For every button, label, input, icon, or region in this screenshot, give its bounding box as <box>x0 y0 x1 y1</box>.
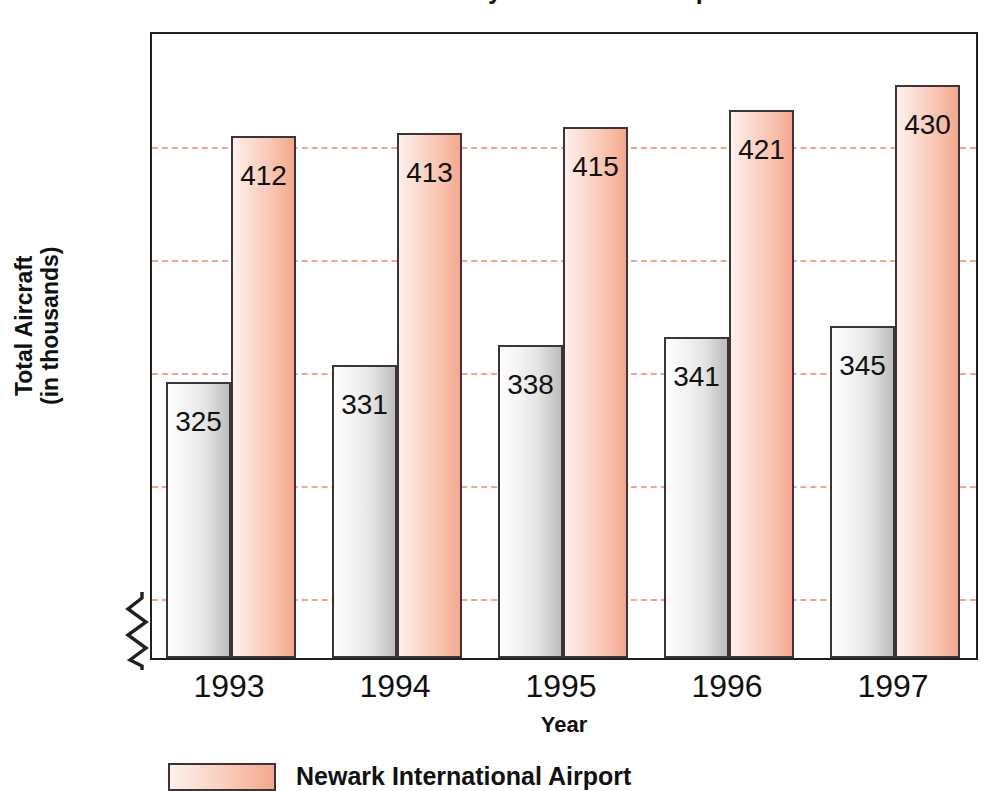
bar-label-1994-gray: 331 <box>334 389 395 421</box>
x-tick-1993: 1993 <box>159 668 299 705</box>
bar-label-1995-gray: 338 <box>500 369 561 401</box>
bar-1993-pink[interactable]: 412 <box>231 136 296 658</box>
bar-1997-gray[interactable]: 345 <box>830 326 895 658</box>
x-tick-1994: 1994 <box>325 668 465 705</box>
bar-label-1996-pink: 421 <box>731 134 792 166</box>
bar-1994-gray[interactable]: 331 <box>332 365 397 658</box>
bar-1995-pink[interactable]: 415 <box>563 127 628 658</box>
bar-1997-pink[interactable]: 430 <box>895 85 960 658</box>
legend-swatch-pink-icon <box>168 763 276 791</box>
x-tick-1995: 1995 <box>491 668 631 705</box>
bar-label-1997-gray: 345 <box>832 350 893 382</box>
bar-1995-gray[interactable]: 338 <box>498 345 563 658</box>
bar-label-1997-pink: 430 <box>897 109 958 141</box>
chart-title: and John F. Kennedy International Airpor… <box>0 0 999 5</box>
y-axis-title-line2: (in thousands) <box>38 196 64 456</box>
plot-inner: 325 412 331 413 338 415 341 <box>152 34 976 658</box>
bar-label-1993-pink: 412 <box>233 160 294 192</box>
bar-1996-pink[interactable]: 421 <box>729 110 794 658</box>
bar-1993-gray[interactable]: 325 <box>166 382 231 658</box>
y-axis-title: Total Aircraft (in thousands) <box>12 196 64 456</box>
chart-legend: Newark International Airport <box>168 762 631 791</box>
bar-1994-pink[interactable]: 413 <box>397 133 462 658</box>
bar-label-1996-gray: 341 <box>666 361 727 393</box>
bar-label-1995-pink: 415 <box>565 151 626 183</box>
bar-1996-gray[interactable]: 341 <box>664 337 729 658</box>
x-axis-title: Year <box>150 712 978 738</box>
bar-label-1993-gray: 325 <box>168 406 229 438</box>
x-tick-1996: 1996 <box>657 668 797 705</box>
y-axis-title-line1: Total Aircraft <box>12 196 38 456</box>
legend-label-pink: Newark International Airport <box>296 762 631 791</box>
plot-area: 325 412 331 413 338 415 341 <box>150 32 978 660</box>
bar-label-1994-pink: 413 <box>399 157 460 189</box>
x-tick-1997: 1997 <box>823 668 963 705</box>
